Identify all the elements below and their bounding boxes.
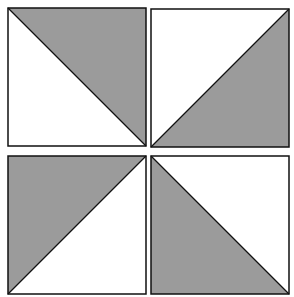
tile-top-right xyxy=(151,9,289,147)
tile-bottom-left xyxy=(8,156,146,294)
tile-bottom-right xyxy=(151,156,289,294)
tile-top-left xyxy=(8,8,146,146)
